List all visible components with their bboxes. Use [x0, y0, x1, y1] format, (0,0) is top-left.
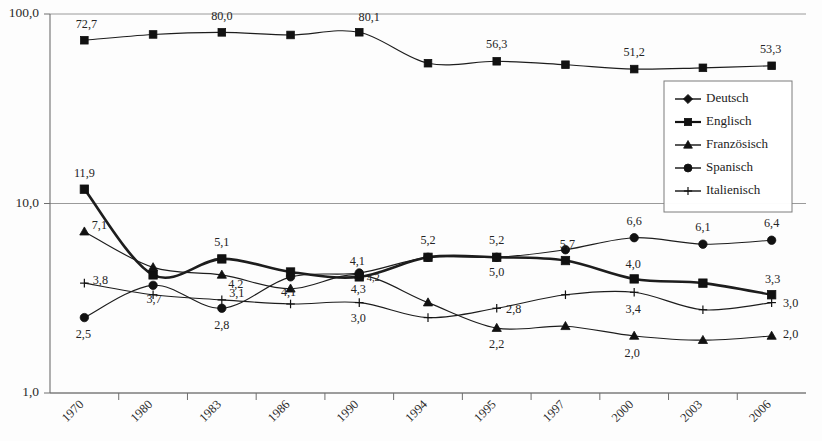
data-point-marker-square: [493, 57, 501, 65]
data-label: 53,3: [760, 42, 781, 56]
data-label: 80,1: [359, 10, 380, 24]
legend-label: Englisch: [706, 113, 752, 128]
data-point-marker-circle: [80, 313, 88, 321]
data-point-marker-square: [149, 271, 157, 279]
data-label: 2,0: [783, 327, 798, 341]
y-tick-label: 100,0: [9, 5, 40, 20]
data-label: 3,0: [783, 296, 798, 310]
data-point-marker-square: [424, 59, 432, 67]
data-label: 3,1: [229, 286, 244, 300]
data-point-marker-square: [630, 65, 638, 73]
data-point-marker-square: [684, 118, 691, 125]
legend-label: Spanisch: [706, 159, 753, 174]
data-label: 5,1: [214, 235, 229, 249]
legend-label: Deutsch: [706, 90, 749, 105]
data-label: 3,4: [626, 302, 641, 316]
data-point-marker-circle: [149, 281, 157, 289]
data-label: 5,2: [420, 233, 435, 247]
data-point-marker-circle: [218, 304, 226, 312]
data-label: 2,8: [506, 302, 521, 316]
data-label: 4,1: [350, 254, 365, 268]
data-label: 5,0: [489, 265, 504, 279]
data-label: 2,0: [625, 346, 640, 360]
data-point-marker-square: [561, 256, 569, 264]
data-point-marker-square: [81, 36, 89, 44]
data-point-marker-circle: [286, 273, 294, 281]
data-label: 4,1: [281, 285, 296, 299]
data-point-marker-square: [630, 275, 638, 283]
data-label: 6,6: [627, 214, 642, 228]
data-point-marker-square: [218, 255, 226, 263]
chart-legend[interactable]: DeutschEnglischFranzösischSpanischItalie…: [664, 81, 792, 212]
data-label: 4,2: [367, 272, 380, 283]
data-label: 56,3: [486, 37, 507, 51]
data-point-marker-circle: [355, 269, 363, 277]
data-point-marker-square: [287, 31, 295, 39]
data-label: 7,1: [92, 218, 107, 232]
data-label: 3,0: [351, 311, 366, 325]
data-label: 4,3: [351, 282, 366, 296]
data-point-marker-square: [149, 31, 157, 39]
data-label: 3,7: [146, 292, 161, 306]
data-point-marker-circle: [684, 164, 692, 172]
data-point-marker-circle: [767, 236, 775, 244]
data-label: 2,2: [489, 337, 504, 351]
y-tick-label: 1,0: [22, 384, 39, 399]
data-point-marker-square: [699, 279, 707, 287]
language-share-log-line-chart: 1,010,0100,0 197019801983198619901994199…: [0, 0, 822, 441]
data-label: 11,9: [74, 166, 95, 180]
data-label: 51,2: [624, 45, 645, 59]
data-label: 72,7: [76, 17, 97, 31]
data-point-marker-square: [699, 64, 707, 72]
legend-label: Französisch: [706, 136, 769, 151]
data-point-marker-circle: [424, 253, 432, 261]
data-label: 5,7: [560, 237, 575, 251]
data-label: 2,8: [214, 318, 229, 332]
data-label: 2,5: [76, 327, 91, 341]
y-tick-label: 10,0: [15, 195, 39, 210]
data-label: 4,0: [626, 257, 641, 271]
chart-page: 1,010,0100,0 197019801983198619901994199…: [0, 0, 822, 441]
legend-label: Italienisch: [706, 182, 761, 197]
data-point-marker-square: [767, 291, 775, 299]
data-point-marker-circle: [630, 233, 638, 241]
data-point-marker-square: [80, 185, 88, 193]
data-point-marker-circle: [493, 253, 501, 261]
data-label: 3,8: [93, 273, 108, 287]
data-point-marker-square: [768, 62, 776, 70]
data-point-marker-square: [218, 29, 226, 37]
data-label: 6,4: [764, 216, 779, 230]
data-label: 6,1: [695, 220, 710, 234]
data-point-marker-square: [562, 61, 570, 69]
data-label: 80,0: [211, 9, 232, 23]
data-label: 3,3: [765, 272, 780, 286]
data-label: 5,2: [489, 233, 504, 247]
data-point-marker-circle: [699, 240, 707, 248]
data-point-marker-square: [355, 28, 363, 36]
